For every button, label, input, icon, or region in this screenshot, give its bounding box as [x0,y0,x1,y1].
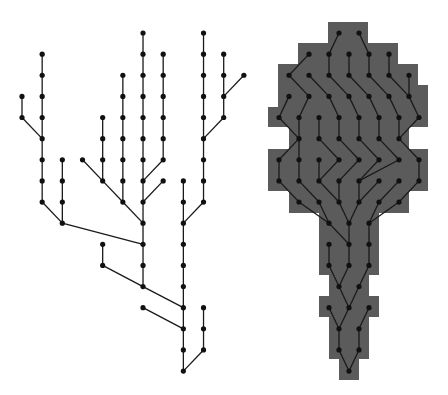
left-tree-node [181,199,186,204]
right-tree-node [416,115,421,120]
right-tree-node [336,136,341,141]
right-tree-node [386,94,391,99]
right-tree-node [386,73,391,78]
left-tree-node [201,157,206,162]
left-tree-node [201,199,206,204]
left-tree-edge [143,287,183,308]
left-tree-node [40,52,45,57]
right-tree-drawing [268,22,428,380]
right-tree-node [326,52,331,57]
right-tree-node [296,157,301,162]
left-tree-node [201,305,206,310]
right-tree-node [366,52,371,57]
left-tree-node [40,73,45,78]
right-tree-node [276,157,281,162]
left-tree-edge [123,202,143,223]
right-tree-node [356,136,361,141]
right-tree-node [326,305,331,310]
left-tree-node [120,178,125,183]
left-tree-node [140,284,145,289]
right-tree-node [336,157,341,162]
left-tree-edge [204,118,224,139]
right-tree-node [366,263,371,268]
left-tree-node [100,136,105,141]
right-tree-node [316,115,321,120]
left-tree-node [140,263,145,268]
right-tree-node [376,136,381,141]
right-tree-node [316,136,321,141]
right-tree-node [286,94,291,99]
left-tree-drawing [19,30,246,373]
left-tree-node [140,30,145,35]
left-tree-edge [22,118,42,139]
right-tree-node [346,73,351,78]
left-tree-node [120,136,125,141]
right-tree-node [336,115,341,120]
left-tree-node [181,221,186,226]
right-tree-node [376,157,381,162]
left-tree-node [221,52,226,57]
left-tree-node [100,263,105,268]
right-tree-node [366,305,371,310]
right-tree-node [366,221,371,226]
left-tree-node [40,157,45,162]
right-tree-node [296,178,301,183]
left-tree-node [40,178,45,183]
right-tree-node [396,115,401,120]
left-tree-node [201,73,206,78]
left-tree-node [161,94,166,99]
left-tree-edge [103,265,143,286]
right-tree-node [406,73,411,78]
right-tree-node [316,199,321,204]
left-tree-node [201,52,206,57]
right-tree-node [346,263,351,268]
right-tree-node [366,73,371,78]
right-tree-node [356,157,361,162]
left-tree-node [60,221,65,226]
left-tree-edge [183,350,203,371]
left-tree-edge [103,181,123,202]
left-tree-node [221,94,226,99]
left-tree-edge [143,181,163,202]
right-tree-node [406,94,411,99]
left-tree-edge [143,160,163,181]
left-tree-node [60,157,65,162]
left-tree-edge [62,223,143,244]
left-tree-edge [83,160,103,181]
left-tree-node [40,94,45,99]
left-tree-node [201,115,206,120]
right-tree-node [296,115,301,120]
right-tree-node [376,199,381,204]
left-tree-edges [22,33,244,371]
left-tree-node [181,284,186,289]
right-tree-node [346,94,351,99]
left-tree-node [100,157,105,162]
tree-layout-figure [0,0,448,395]
left-tree-node [201,94,206,99]
left-tree-node [60,178,65,183]
right-tree-node [306,73,311,78]
left-tree-node [161,136,166,141]
right-tree-node [326,94,331,99]
left-tree-edge [42,202,62,223]
right-tree-node [356,284,361,289]
left-tree-node [181,178,186,183]
right-tree-node [326,73,331,78]
left-tree-node [19,115,24,120]
right-tree-node [366,94,371,99]
right-tree-node [366,242,371,247]
right-tree-node [276,178,281,183]
left-tree-node [80,157,85,162]
left-tree-node [201,30,206,35]
right-tree-node [336,284,341,289]
left-tree-node [100,242,105,247]
right-tree-node [276,115,281,120]
left-tree-edge [143,308,183,329]
left-tree-node [201,347,206,352]
left-tree-node [181,242,186,247]
left-tree-node [161,73,166,78]
right-tree-node [356,30,361,35]
right-tree-node [316,178,321,183]
left-tree-node [181,326,186,331]
right-tree-node [356,178,361,183]
